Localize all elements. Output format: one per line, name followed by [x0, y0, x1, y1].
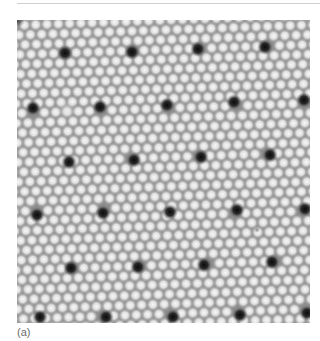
top-rule-divider — [17, 3, 320, 4]
lattice-canvas — [17, 20, 310, 323]
micrograph-image — [17, 20, 310, 323]
figure-caption: (a) — [17, 326, 30, 339]
